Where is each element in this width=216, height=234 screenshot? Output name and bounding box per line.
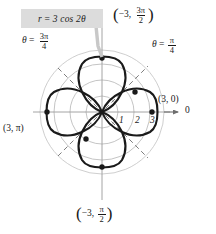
theta-left-denominator: 4 [40,41,48,51]
paren-close-bottom: ) [107,206,113,221]
marker-pi-over-4 [132,89,137,94]
theta-right-denominator: 4 [168,45,176,55]
point-top-numerator: 3π [135,6,148,15]
equation-text: r = 3 cos 2θ [38,14,86,24]
radial-tick-1: 1 [119,116,124,126]
point-label-3-pi: (3, π) [3,124,24,134]
marker-3-0 [149,109,154,114]
radial-tick-3: 3 [150,116,155,126]
theta-left-numerator: 3π [38,32,51,41]
theta-symbol-left: θ [22,35,27,45]
equation-theta: θ [81,14,86,24]
marker-neg3-pi-2 [99,164,104,169]
point-top-comma: , [129,10,134,20]
theta-left-fraction: 3π 4 [38,32,51,50]
radial-tick-2: 2 [135,116,140,126]
marker-3-pi [44,109,49,114]
theta-3pi-over-4-label: θ = 3π 4 [22,32,51,50]
theta-equals-right: = [159,39,164,49]
marker-5pi-over-4 [83,136,88,141]
polar-graph-figure: r = 3 cos 2θ θ = 3π 4 θ = π 4 ( −3 , 3π … [0,0,216,234]
point-bottom-denominator: 2 [98,214,106,224]
theta-equals-left: = [29,35,34,45]
theta-right-fraction: π 4 [168,36,176,54]
theta-pi-over-4-label: θ = π 4 [152,36,177,54]
point-bottom-fraction: π 2 [98,205,106,223]
equation-leader-line [96,26,102,57]
point-top-r: −3 [119,10,129,20]
polar-axis-label: 0 [185,106,190,116]
point-top-denominator: 2 [137,15,145,25]
point-label-neg3-3pi-over-2: ( −3 , 3π 2 ) [113,6,154,24]
paren-close-top: ) [148,7,154,22]
point-bottom-numerator: π [98,205,106,214]
point-label-3-0: (3, 0) [158,95,179,105]
theta-right-numerator: π [168,36,176,45]
equation-callout-box: r = 3 cos 2θ [21,9,103,28]
theta-symbol-right: θ [152,39,157,49]
equation-rhs: 3 cos 2 [53,14,81,24]
point-bottom-r: −3 [82,209,92,219]
point-bottom-comma: , [92,209,97,219]
point-label-neg3-pi-over-2: ( −3 , π 2 ) [76,205,113,223]
point-top-fraction: 3π 2 [135,6,148,24]
